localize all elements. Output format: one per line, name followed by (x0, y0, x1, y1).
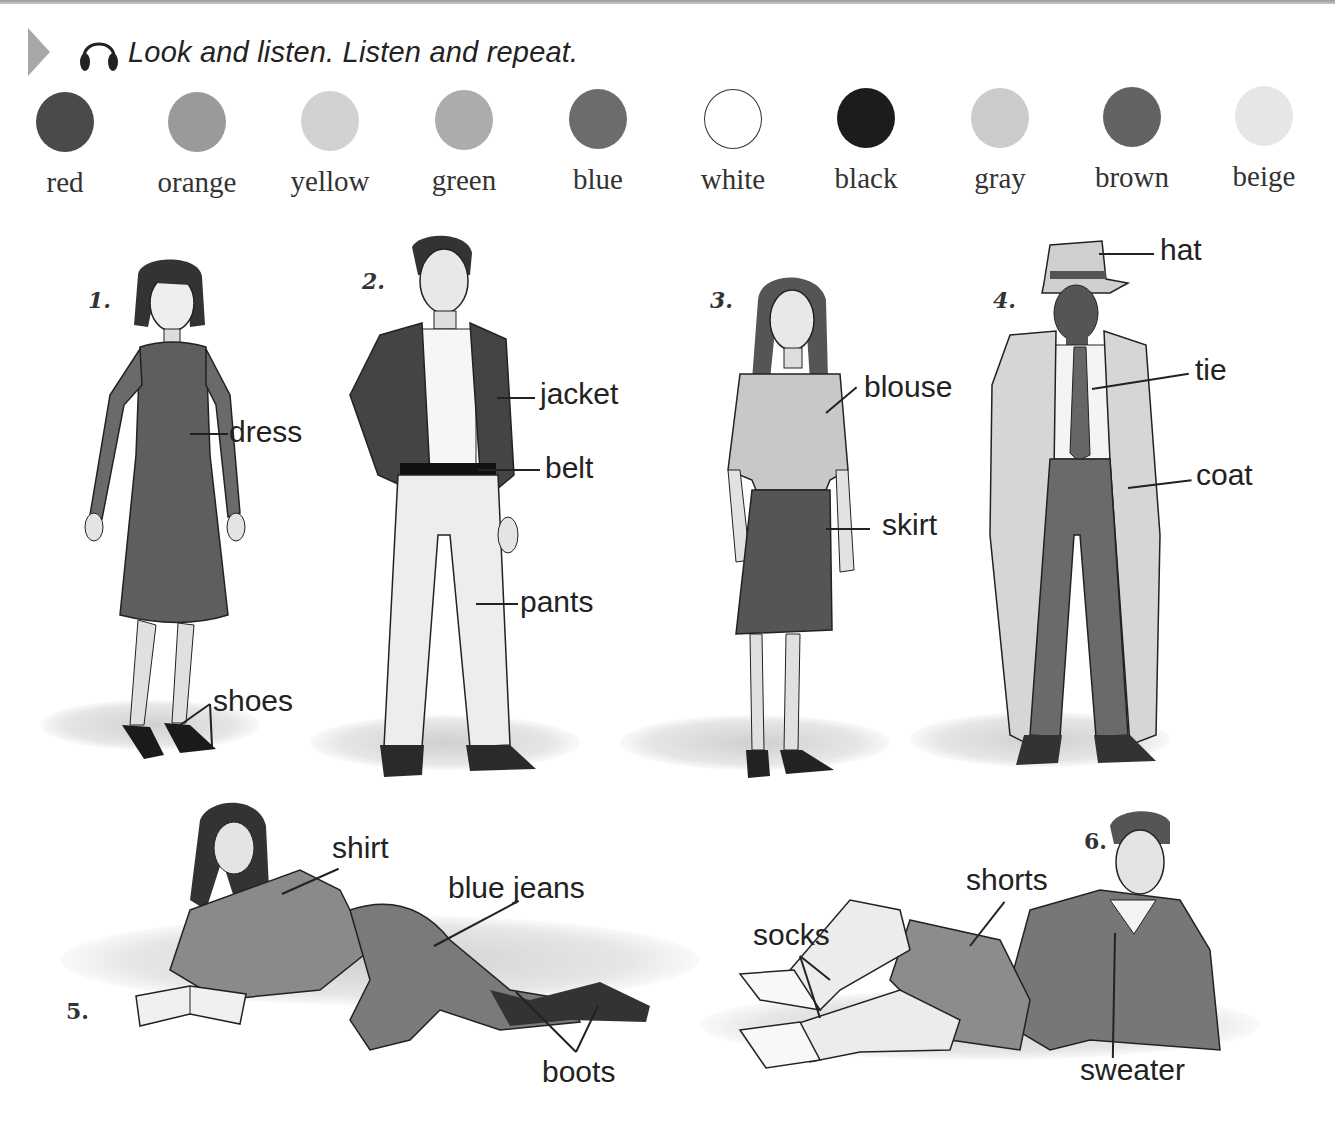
color-swatch-red: red (5, 92, 125, 197)
color-dot (168, 92, 226, 152)
color-swatch-orange: orange (137, 92, 257, 197)
color-swatch-white: white (673, 89, 793, 194)
label-blue-jeans: blue jeans (448, 873, 585, 903)
figure-number-5: 5. (66, 998, 89, 1024)
color-dot (569, 89, 627, 149)
label-sweater: sweater (1080, 1055, 1185, 1085)
label-skirt: skirt (882, 510, 937, 540)
figure-4-illustration (980, 235, 1180, 775)
color-name: black (806, 164, 926, 193)
leader-line (476, 603, 518, 605)
label-pants: pants (520, 587, 593, 617)
color-swatch-brown: brown (1072, 87, 1192, 192)
color-name: brown (1072, 163, 1192, 192)
color-name: red (5, 168, 125, 197)
color-swatch-gray: gray (940, 88, 1060, 193)
figure-3-illustration (710, 270, 870, 790)
label-shirt: shirt (332, 833, 389, 863)
instruction-text: Look and listen. Listen and repeat. (128, 36, 578, 69)
label-dress: dress (229, 417, 302, 447)
color-swatch-black: black (806, 88, 926, 193)
figure-number-2: 2. (362, 268, 385, 294)
leader-line (497, 397, 535, 399)
color-dot (837, 88, 895, 148)
label-jacket: jacket (540, 379, 618, 409)
figure-number-1: 1. (88, 287, 111, 313)
leader-line (478, 469, 540, 471)
label-hat: hat (1160, 235, 1202, 265)
color-dot (36, 92, 94, 152)
color-dot (971, 88, 1029, 148)
color-name: green (404, 166, 524, 195)
color-swatch-beige: beige (1204, 86, 1324, 191)
leader-line (826, 528, 870, 530)
color-dot (1235, 86, 1293, 146)
color-dot (1103, 87, 1161, 147)
headphones-icon[interactable] (76, 29, 122, 75)
top-rule (0, 0, 1335, 4)
figure-number-4: 4. (993, 287, 1016, 313)
color-swatch-green: green (404, 90, 524, 195)
figure-number-3: 3. (710, 287, 733, 313)
color-name: blue (538, 165, 658, 194)
label-coat: coat (1196, 460, 1253, 490)
label-shorts: shorts (966, 865, 1048, 895)
socks-leader-lines (780, 952, 860, 1032)
color-dot (301, 91, 359, 151)
label-belt: belt (545, 453, 593, 483)
leader-line (1099, 253, 1154, 255)
shoes-leader-lines (170, 700, 220, 760)
label-shoes: shoes (213, 686, 293, 716)
leader-line (190, 433, 228, 435)
color-dot (704, 89, 762, 149)
color-name: yellow (270, 167, 390, 196)
figure-number-6: 6. (1084, 828, 1107, 854)
color-swatch-blue: blue (538, 89, 658, 194)
figure-2-illustration (340, 235, 540, 795)
label-blouse: blouse (864, 372, 952, 402)
color-dot (435, 90, 493, 150)
color-swatch-yellow: yellow (270, 91, 390, 196)
color-name: white (673, 165, 793, 194)
exercise-header: Look and listen. Listen and repeat. (28, 26, 578, 78)
boots-leader-lines (510, 970, 610, 1060)
color-swatch-row: red orange yellow green blue white black… (0, 88, 1335, 208)
color-name: gray (940, 164, 1060, 193)
label-boots: boots (542, 1057, 615, 1087)
color-name: beige (1204, 162, 1324, 191)
color-name: orange (137, 168, 257, 197)
label-socks: socks (753, 920, 830, 950)
play-triangle-icon[interactable] (28, 28, 50, 76)
label-tie: tie (1195, 355, 1227, 385)
